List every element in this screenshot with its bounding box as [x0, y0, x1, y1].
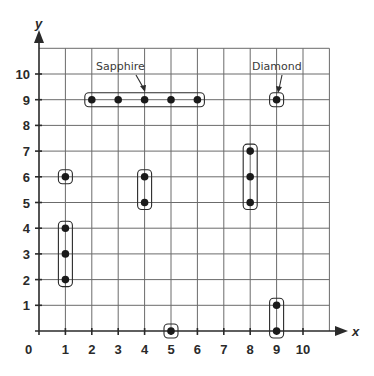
y-tick-label: 10: [16, 67, 30, 82]
y-tick-label: 2: [23, 273, 30, 288]
axes: [34, 30, 348, 336]
tick-labels: 1234567891012345678910: [16, 67, 311, 357]
x-tick-label: 4: [141, 342, 149, 357]
y-axis-label: y: [34, 16, 43, 31]
data-point: [194, 96, 202, 104]
data-point: [167, 96, 175, 104]
sapphire-label: Sapphire: [96, 60, 145, 73]
y-tick-label: 4: [23, 221, 31, 236]
x-tick-label: 1: [62, 342, 69, 357]
diamond-label: Diamond: [252, 60, 302, 73]
data-point: [167, 327, 175, 335]
grid-lines: [39, 48, 329, 331]
y-tick-label: 6: [23, 170, 30, 185]
x-tick-label: 7: [220, 342, 227, 357]
y-tick-label: 3: [23, 247, 30, 262]
x-tick-label: 9: [273, 342, 280, 357]
data-point: [114, 96, 122, 104]
data-point: [141, 199, 149, 207]
data-point: [273, 302, 281, 310]
data-point: [246, 199, 254, 207]
y-tick-label: 1: [23, 298, 30, 313]
x-tick-label: 2: [88, 342, 95, 357]
x-axis-arrow-icon: [335, 326, 348, 336]
y-tick-label: 9: [23, 93, 30, 108]
data-point: [141, 96, 149, 104]
data-point: [62, 250, 70, 258]
data-point: [141, 173, 149, 181]
sapphire-arrowhead-icon: [140, 85, 146, 92]
y-axis-arrow-icon: [34, 30, 44, 43]
coordinate-grid-chart: 1234567891012345678910 Sapphire Diamond …: [0, 0, 374, 376]
x-tick-label: 8: [247, 342, 254, 357]
data-point: [246, 173, 254, 181]
origin-label: 0: [25, 342, 32, 357]
data-point: [273, 327, 281, 335]
data-point: [246, 147, 254, 155]
x-tick-label: 6: [194, 342, 201, 357]
x-tick-label: 10: [296, 342, 310, 357]
x-axis-label: x: [351, 324, 360, 339]
data-point: [62, 276, 70, 284]
y-tick-label: 5: [23, 196, 30, 211]
data-point: [273, 96, 281, 104]
data-point: [62, 224, 70, 232]
x-tick-label: 5: [167, 342, 174, 357]
data-point: [88, 96, 96, 104]
data-point: [62, 173, 70, 181]
y-tick-label: 7: [23, 144, 30, 159]
x-tick-label: 3: [115, 342, 122, 357]
y-tick-label: 8: [23, 118, 30, 133]
